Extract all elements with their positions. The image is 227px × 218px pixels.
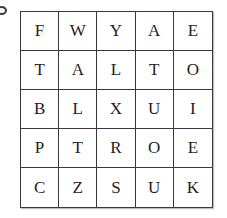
grid-cell: T [21,51,59,90]
grid-cell: L [59,90,97,129]
grid-cell: E [174,129,212,168]
grid-cell: U [136,90,174,129]
grid-cell: W [59,12,97,51]
grid-cell: S [97,168,135,207]
grid-cell: O [174,51,212,90]
grid-cell: A [136,12,174,51]
grid-cell: P [21,129,59,168]
grid-cell: Y [97,12,135,51]
grid-cell: T [136,51,174,90]
grid-cell: A [59,51,97,90]
grid-cell: O [136,129,174,168]
grid-cell: K [174,168,212,207]
grid-cell: I [174,90,212,129]
grid-cell: R [97,129,135,168]
letter-grid: FWYAETALTOBLXUIPTROECZSUK [20,11,213,208]
grid-cell: T [59,129,97,168]
circle-mark-icon [0,6,7,15]
grid-cell: Z [59,168,97,207]
grid-cell: F [21,12,59,51]
grid-cell: B [21,90,59,129]
grid-cell: L [97,51,135,90]
grid-cell: E [174,12,212,51]
grid-cell: C [21,168,59,207]
grid-cell: U [136,168,174,207]
grid-cell: X [97,90,135,129]
